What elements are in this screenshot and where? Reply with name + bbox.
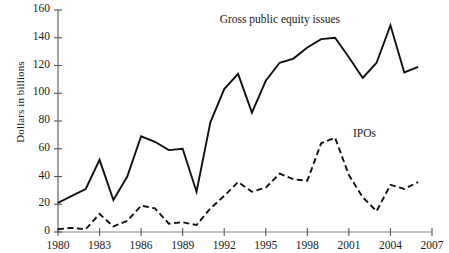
chart-series-lines (58, 25, 418, 229)
series-line-1 (58, 25, 418, 203)
chart-container: Dollars in billions 02040608010012014016… (0, 0, 449, 253)
chart-plot-area (0, 0, 449, 253)
series-line-2 (58, 138, 418, 230)
chart-axes (54, 10, 432, 236)
